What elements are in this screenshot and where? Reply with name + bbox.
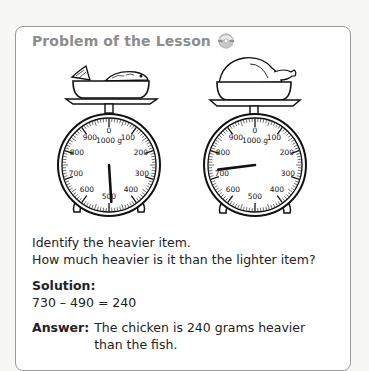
dial-label-800: 800 (216, 148, 231, 157)
dial-label-0: 0 (107, 126, 112, 135)
dial-label-500: 500 (248, 192, 263, 201)
dial-label-100: 100 (121, 133, 136, 142)
scales-illustration: 0 1000 g 100 200 300 400 500 600 700 800… (0, 0, 369, 230)
dial-label-0: 0 (253, 126, 258, 135)
chicken-scale: 0 1000 g 100 200 300 400 500 600 700 800… (204, 58, 306, 216)
dial-label-600: 600 (80, 185, 95, 194)
dial-label-400: 400 (124, 185, 139, 194)
fish-scale: 0 1000 g 100 200 300 400 500 600 700 800… (58, 66, 160, 216)
dial-label-400: 400 (270, 185, 285, 194)
dial-label-900: 900 (83, 133, 98, 142)
dial-unit: 1000 g (242, 136, 268, 145)
dial-label-700: 700 (69, 169, 84, 178)
dial-unit: 1000 g (96, 136, 122, 145)
dial-label-200: 200 (134, 148, 149, 157)
solution-label: Solution: (32, 277, 316, 294)
dial-label-300: 300 (281, 169, 296, 178)
answer-label: Answer: (32, 319, 89, 353)
answer-row: Answer: The chicken is 240 grams heavier… (32, 319, 316, 353)
question-line-2: How much heavier is it than the lighter … (32, 251, 316, 268)
dial-label-600: 600 (226, 185, 241, 194)
dial-label-900: 900 (229, 133, 244, 142)
dial-label-800: 800 (70, 148, 85, 157)
dial-label-500: 500 (102, 192, 117, 201)
dial-label-300: 300 (135, 169, 150, 178)
dial-label-100: 100 (267, 133, 282, 142)
dial-label-200: 200 (280, 148, 295, 157)
answer-line-2: than the fish. (94, 337, 177, 352)
problem-text: Identify the heavier item. How much heav… (32, 234, 316, 353)
question-line-1: Identify the heavier item. (32, 234, 316, 251)
solution-equation: 730 – 490 = 240 (32, 294, 316, 311)
answer-line-1: The chicken is 240 grams heavier (94, 320, 305, 335)
answer-text: The chicken is 240 grams heavier than th… (94, 319, 305, 353)
